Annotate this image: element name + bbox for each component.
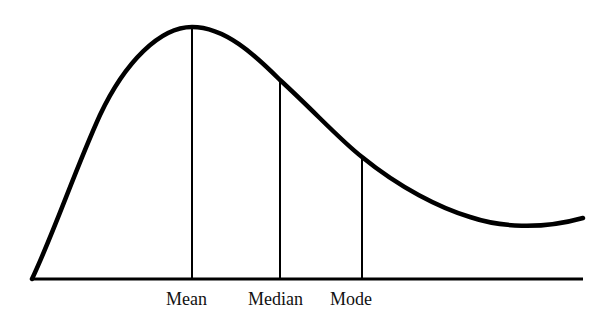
distribution-curve [32,27,583,279]
mode-label: Mode [330,290,372,308]
distribution-diagram [0,0,613,320]
median-label: Median [248,290,303,308]
mean-label: Mean [166,290,207,308]
